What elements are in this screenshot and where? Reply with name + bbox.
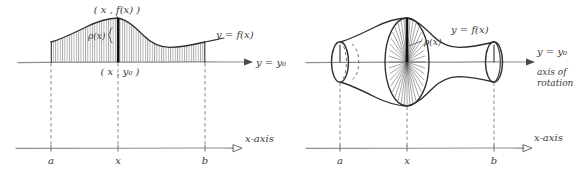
filled-triangle-right-icon xyxy=(244,58,253,65)
right-radius-label: ρ(x) xyxy=(423,37,442,47)
right-y0-axis-label: y = y₀ xyxy=(536,46,567,57)
filled-triangle-right-icon xyxy=(526,58,535,65)
left-curve-label: y = f(x) xyxy=(215,29,254,40)
left-point-top-label: ( x , f(x) ) xyxy=(94,4,141,15)
hand-drawn-diagram: ( x , f(x) ) ( x , y₀ ) ρ(x) y = f(x) y … xyxy=(0,0,582,178)
figure-canvas: ( x , f(x) ) ( x , y₀ ) ρ(x) y = f(x) y … xyxy=(0,0,582,178)
right-tick-label-b: b xyxy=(491,155,497,166)
left-tick-label-b: b xyxy=(202,155,208,166)
right-axis-caption-line2: rotation xyxy=(537,78,574,88)
left-y0-axis-label: y = y₀ xyxy=(255,57,286,68)
right-radius-label-leader xyxy=(409,41,422,46)
right-panel: ρ(x) y = f(x) y = y₀ axis of rotation x-… xyxy=(306,18,574,166)
left-point-base-label: ( x , y₀ ) xyxy=(101,66,140,77)
left-tick-label-x: x xyxy=(115,155,121,166)
left-radius-label: ρ(x) xyxy=(87,31,106,41)
right-axis-caption-line1: axis of xyxy=(537,67,568,77)
left-shaded-region xyxy=(48,14,210,64)
right-tick-label-x: x xyxy=(404,155,410,166)
right-x-axis-label: x-axis xyxy=(534,132,563,143)
left-panel: ( x , f(x) ) ( x , y₀ ) ρ(x) y = f(x) y … xyxy=(16,4,286,166)
right-tick-label-a: a xyxy=(337,155,343,166)
right-curve-label: y = f(x) xyxy=(450,24,489,35)
left-x-axis-label: x-axis xyxy=(245,133,274,144)
left-tick-label-a: a xyxy=(48,155,54,166)
